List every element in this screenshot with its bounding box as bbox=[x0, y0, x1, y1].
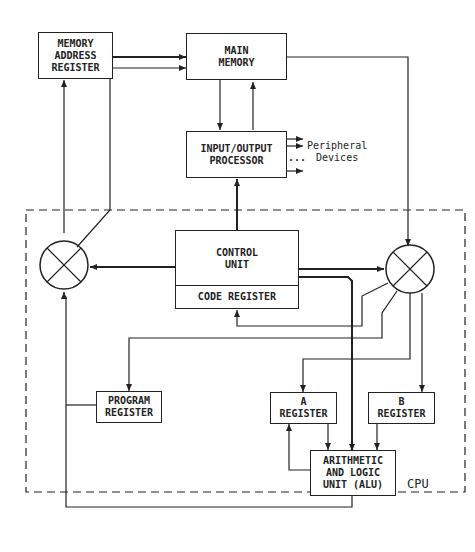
a-register: A REGISTER bbox=[270, 392, 337, 424]
b-register: B REGISTER bbox=[368, 392, 435, 424]
input-output-processor: INPUT/OUTPUT PROCESSOR bbox=[186, 131, 287, 178]
program-register: PROGRAM REGISTER bbox=[96, 391, 162, 423]
left-multiplexer-icon bbox=[40, 241, 88, 289]
control-unit: CONTROL UNIT bbox=[175, 230, 299, 286]
cpu-label: CPU bbox=[407, 478, 429, 490]
alu: ARITHMETIC AND LOGIC UNIT (ALU) bbox=[310, 450, 396, 496]
peripheral-dots: ... bbox=[288, 152, 306, 164]
main-memory: MAIN MEMORY bbox=[186, 33, 287, 80]
peripheral-devices-label: Peripheral Devices bbox=[307, 140, 367, 164]
memory-address-register: MEMORY ADDRESS REGISTER bbox=[38, 32, 113, 79]
right-multiplexer-icon bbox=[386, 245, 434, 293]
code-register: CODE REGISTER bbox=[175, 285, 299, 309]
